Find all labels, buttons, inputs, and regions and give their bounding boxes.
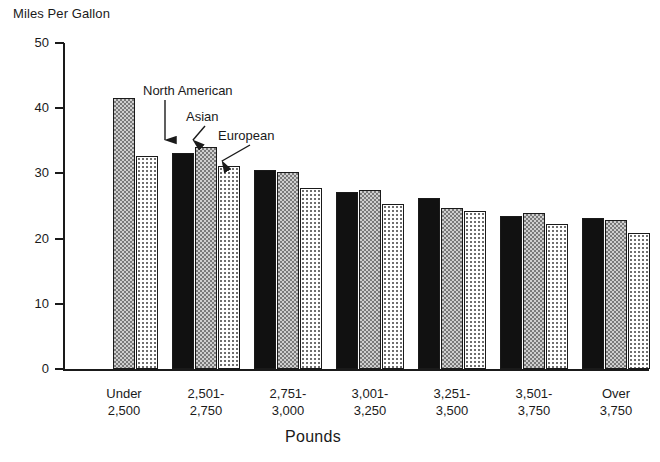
y-tick-label-10: 10 bbox=[5, 297, 49, 310]
bar-asian bbox=[113, 98, 135, 369]
bar-north-american bbox=[172, 153, 194, 369]
y-tick-label-30: 30 bbox=[5, 166, 49, 179]
bar-asian bbox=[277, 172, 299, 369]
bar-group bbox=[254, 43, 322, 369]
y-tick-40 bbox=[55, 107, 64, 109]
category-label-line: 2,751- bbox=[242, 385, 334, 402]
bar-asian bbox=[605, 220, 627, 369]
bar-north-american bbox=[500, 216, 522, 369]
bar-asian bbox=[441, 208, 463, 369]
category-label-line: 3,750 bbox=[570, 402, 660, 419]
y-tick-0 bbox=[55, 368, 64, 370]
bar-group bbox=[500, 43, 568, 369]
y-tick-20 bbox=[55, 238, 64, 240]
category-label: 3,501-3,750 bbox=[488, 385, 580, 419]
category-label-line: 2,750 bbox=[160, 402, 252, 419]
bar-european bbox=[464, 211, 486, 369]
category-label-line: 3,000 bbox=[242, 402, 334, 419]
category-label-line: 3,250 bbox=[324, 402, 416, 419]
category-label-line: Over bbox=[570, 385, 660, 402]
annotation-asian: Asian bbox=[186, 110, 219, 124]
y-tick-label-50: 50 bbox=[5, 36, 49, 49]
y-tick-label-0: 0 bbox=[5, 362, 49, 375]
mpg-by-weight-bar-chart: Miles Per Gallon 50403020100 Under2,5002… bbox=[0, 0, 660, 462]
bar-european bbox=[546, 224, 568, 369]
bar-european bbox=[218, 166, 240, 369]
bar-north-american bbox=[336, 192, 358, 369]
bar-group bbox=[418, 43, 486, 369]
x-axis-line bbox=[63, 369, 649, 371]
y-tick-30 bbox=[55, 172, 64, 174]
category-label-line: 2,501- bbox=[160, 385, 252, 402]
bar-north-american bbox=[254, 170, 276, 369]
bar-asian bbox=[523, 213, 545, 369]
y-axis-title: Miles Per Gallon bbox=[13, 6, 110, 21]
category-label: 3,001-3,250 bbox=[324, 385, 416, 419]
category-label-line: 3,001- bbox=[324, 385, 416, 402]
bar-european bbox=[382, 204, 404, 369]
category-label: 3,251-3,500 bbox=[406, 385, 498, 419]
x-axis-title: Pounds bbox=[285, 428, 341, 446]
bar-asian bbox=[359, 190, 381, 369]
annotation-european: European bbox=[218, 129, 274, 143]
category-label-line: 3,501- bbox=[488, 385, 580, 402]
bar-european bbox=[628, 233, 650, 369]
y-tick-label-40: 40 bbox=[5, 101, 49, 114]
y-tick-label-20: 20 bbox=[5, 232, 49, 245]
category-label: Over3,750 bbox=[570, 385, 660, 419]
category-label: 2,501-2,750 bbox=[160, 385, 252, 419]
category-label-line: 3,500 bbox=[406, 402, 498, 419]
bar-north-american bbox=[582, 218, 604, 369]
category-label-line: Under bbox=[78, 385, 170, 402]
bar-north-american bbox=[418, 198, 440, 369]
bar-group bbox=[336, 43, 404, 369]
category-label-line: 2,500 bbox=[78, 402, 170, 419]
category-label: Under2,500 bbox=[78, 385, 170, 419]
y-tick-50 bbox=[55, 42, 64, 44]
bar-asian bbox=[195, 147, 217, 369]
bar-european bbox=[300, 188, 322, 369]
category-label: 2,751-3,000 bbox=[242, 385, 334, 419]
category-label-line: 3,251- bbox=[406, 385, 498, 402]
bar-group bbox=[582, 43, 650, 369]
y-tick-10 bbox=[55, 303, 64, 305]
annotation-north-american: North American bbox=[143, 84, 233, 98]
category-label-line: 3,750 bbox=[488, 402, 580, 419]
bar-european bbox=[136, 156, 158, 369]
